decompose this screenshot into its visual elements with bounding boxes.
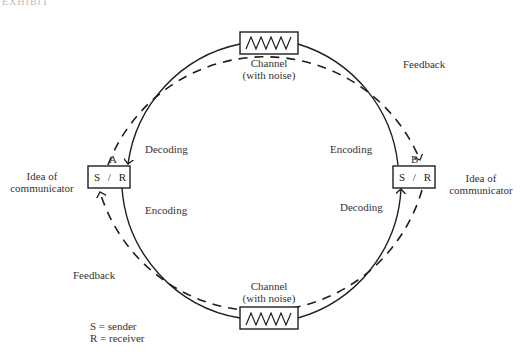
node-b-idea: Idea of communicator xyxy=(443,172,519,196)
channel-bottom-line1: Channel xyxy=(236,280,302,292)
legend-receiver: R = receiver xyxy=(90,332,144,344)
encoding-a-label: Encoding xyxy=(145,204,187,216)
channel-loop xyxy=(122,44,401,318)
node-a-idea: Idea of communicator xyxy=(4,170,80,194)
node-a-sender: S xyxy=(94,171,100,183)
node-b-receiver: R xyxy=(424,171,431,183)
channel-top-label: Channel (with noise) xyxy=(236,57,302,81)
legend: S = sender R = receiver xyxy=(90,320,144,344)
encoding-b-label: Encoding xyxy=(330,143,372,155)
decoding-a-label: Decoding xyxy=(145,143,188,155)
node-a-label: A xyxy=(109,153,117,165)
channel-top-line2: (with noise) xyxy=(236,69,302,81)
feedback-top-label: Feedback xyxy=(403,58,445,70)
node-b-idea-line2: communicator xyxy=(443,184,519,196)
node-b-text: S / R xyxy=(399,171,431,183)
node-b-slash: / xyxy=(413,171,416,183)
node-a-slash: / xyxy=(108,171,111,183)
node-a-idea-line2: communicator xyxy=(4,182,80,194)
decoding-b-label: Decoding xyxy=(340,201,383,213)
legend-sender: S = sender xyxy=(90,320,144,332)
node-b-label: B xyxy=(411,153,418,165)
node-b-sender: S xyxy=(399,171,405,183)
node-b-idea-line1: Idea of xyxy=(443,172,519,184)
node-a-idea-line1: Idea of xyxy=(4,170,80,182)
channel-top-line1: Channel xyxy=(236,57,302,69)
node-a-receiver: R xyxy=(119,171,126,183)
channel-bottom-line2: (with noise) xyxy=(236,292,302,304)
node-a-text: S / R xyxy=(94,171,126,183)
feedback-bottom-label: Feedback xyxy=(73,269,115,281)
channel-bottom-label: Channel (with noise) xyxy=(236,280,302,304)
channel-top-box xyxy=(240,32,298,54)
channel-bottom-box xyxy=(240,307,298,329)
feedback-loop xyxy=(100,57,422,311)
